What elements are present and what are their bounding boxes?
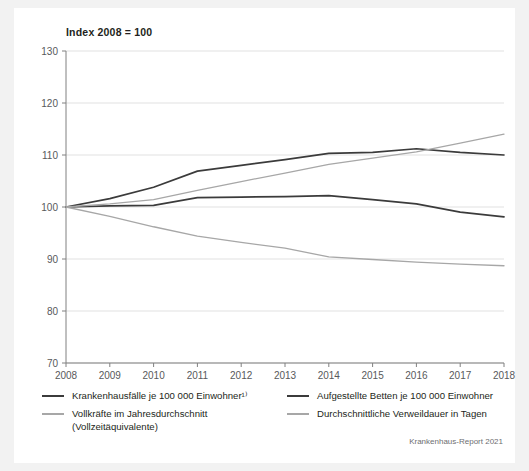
series-line-1 — [66, 196, 504, 217]
series-line-3 — [66, 207, 504, 266]
y-axis-ticks: 708090100110120130 — [41, 46, 66, 369]
legend-label: Vollkräfte im Jahresdurchschnitt (Vollze… — [72, 407, 207, 433]
legend-item-aufgestellte-betten: Aufgestellte Betten je 100 000 Einwohner — [287, 389, 512, 402]
x-tick-label: 2018 — [493, 370, 516, 381]
x-tick-label: 2017 — [449, 370, 472, 381]
legend-item-krankenhausfaelle: Krankenhausfälle je 100 000 Einwohner¹⁾ — [42, 389, 287, 402]
x-tick-label: 2010 — [142, 370, 165, 381]
x-tick-label: 2014 — [318, 370, 341, 381]
legend-row: Vollkräfte im Jahresdurchschnitt (Vollze… — [42, 407, 512, 433]
y-tick-label: 100 — [41, 202, 58, 213]
gridlines — [66, 51, 504, 363]
legend-swatch-line-icon — [42, 413, 64, 415]
y-tick-label: 130 — [41, 46, 58, 57]
chart-figure: Index 2008 = 100 708090100110120130 2008… — [0, 0, 529, 471]
legend-item-verweildauer: Durchschnittliche Verweildauer in Tagen — [287, 407, 512, 433]
y-tick-label: 70 — [47, 358, 59, 369]
series-line-0 — [66, 149, 504, 207]
x-tick-label: 2008 — [55, 370, 78, 381]
y-tick-label: 90 — [47, 254, 59, 265]
x-tick-label: 2012 — [230, 370, 253, 381]
legend-label: Aufgestellte Betten je 100 000 Einwohner — [317, 389, 493, 402]
legend-label: Krankenhausfälle je 100 000 Einwohner¹⁾ — [72, 389, 247, 402]
y-tick-label: 110 — [42, 150, 58, 161]
chart-legend: Krankenhausfälle je 100 000 Einwohner¹⁾ … — [42, 389, 512, 433]
x-tick-label: 2011 — [187, 370, 209, 381]
data-series — [66, 134, 504, 266]
legend-swatch-line-icon — [287, 413, 309, 415]
legend-swatch-line-icon — [42, 395, 64, 397]
y-tick-label: 80 — [47, 306, 59, 317]
x-tick-label: 2015 — [361, 370, 384, 381]
source-credit: Krankenhaus-Report 2021 — [409, 437, 503, 446]
legend-label: Durchschnittliche Verweildauer in Tagen — [317, 407, 487, 420]
legend-item-vollkraefte: Vollkräfte im Jahresdurchschnitt (Vollze… — [42, 407, 287, 433]
x-tick-label: 2013 — [274, 370, 297, 381]
legend-row: Krankenhausfälle je 100 000 Einwohner¹⁾ … — [42, 389, 512, 402]
y-tick-label: 120 — [41, 98, 58, 109]
legend-swatch-line-icon — [287, 395, 309, 397]
x-tick-label: 2009 — [99, 370, 122, 381]
x-tick-label: 2016 — [405, 370, 428, 381]
x-axis-ticks: 2008200920102011201220132014201520162017… — [55, 363, 516, 381]
